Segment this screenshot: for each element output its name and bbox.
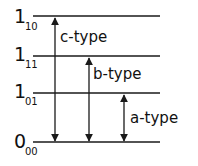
- level-sub: 00: [25, 147, 38, 157]
- energy-level-diagram: 1 10 1 11 1 01 0 00 c-type b-type a-type: [0, 0, 198, 166]
- level-sub: 11: [25, 60, 38, 70]
- level-sub: 10: [25, 22, 38, 32]
- level-sub: 01: [25, 97, 38, 107]
- b-type-label: b-type: [93, 67, 141, 82]
- a-type-label: a-type: [130, 111, 178, 126]
- c-type-label: c-type: [60, 30, 107, 45]
